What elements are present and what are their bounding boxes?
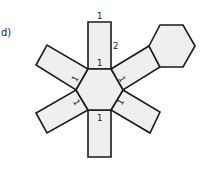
prism-net-diagram: 1 2 1 1 1 1 1 1	[0, 0, 209, 169]
edge-label-side: 2	[113, 41, 118, 51]
edge-label-center-top: 1	[97, 58, 102, 68]
outer-hexagon-face	[149, 25, 195, 67]
edge-label-top: 1	[97, 11, 102, 21]
edge-label-center-bottom: 1	[97, 113, 102, 123]
